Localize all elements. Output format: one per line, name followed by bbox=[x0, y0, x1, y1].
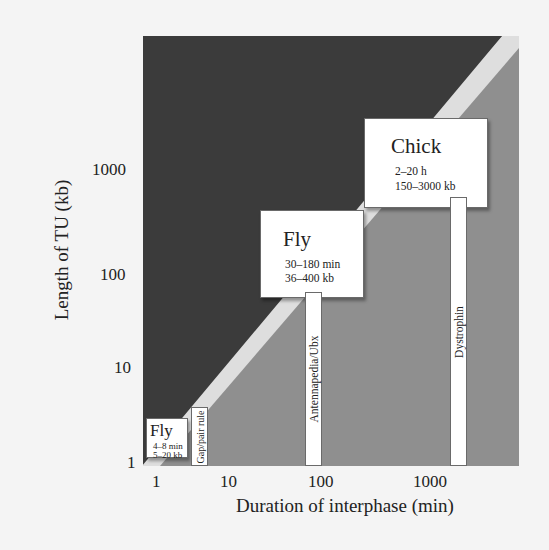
chick-duration: 2–20 h bbox=[395, 165, 427, 177]
chick-length: 150–3000 kb bbox=[395, 180, 455, 192]
gap-pair-rule-label: Gap/pair rule bbox=[194, 410, 205, 463]
x-axis-title: Duration of interphase (min) bbox=[236, 495, 454, 517]
fly-mid-box: Fly 30–180 min 36–400 kb bbox=[260, 210, 364, 298]
x-tick-1: 1 bbox=[152, 472, 161, 492]
fly-early-title: Fly bbox=[150, 421, 173, 441]
fly-mid-length: 36–400 kb bbox=[285, 272, 334, 284]
fly-mid-duration: 30–180 min bbox=[285, 258, 340, 270]
x-tick-100: 100 bbox=[308, 472, 334, 492]
gap-pair-rule-bar: Gap/pair rule bbox=[191, 407, 208, 466]
x-tick-1000: 1000 bbox=[413, 472, 447, 492]
y-axis-title: Length of TU (kb) bbox=[51, 180, 73, 321]
antennapedia-ubx-label: Antennapedia/Ubx bbox=[308, 336, 320, 423]
y-tick-1: 1 bbox=[127, 453, 136, 473]
y-tick-100: 100 bbox=[100, 265, 126, 285]
fly-mid-title: Fly bbox=[283, 227, 311, 252]
dystrophin-label: Dystrophin bbox=[453, 306, 465, 358]
fly-early-length: 5–20 kb bbox=[153, 450, 182, 460]
y-tick-1000: 1000 bbox=[92, 160, 126, 180]
antennapedia-ubx-bar: Antennapedia/Ubx bbox=[305, 292, 322, 466]
chick-box: Chick 2–20 h 150–3000 kb bbox=[364, 118, 488, 208]
fly-early-box: Fly 4–8 min 5–20 kb bbox=[146, 418, 188, 458]
x-tick-10: 10 bbox=[220, 472, 237, 492]
y-tick-10: 10 bbox=[114, 358, 131, 378]
chick-title: Chick bbox=[391, 134, 441, 159]
dystrophin-bar: Dystrophin bbox=[450, 197, 467, 466]
